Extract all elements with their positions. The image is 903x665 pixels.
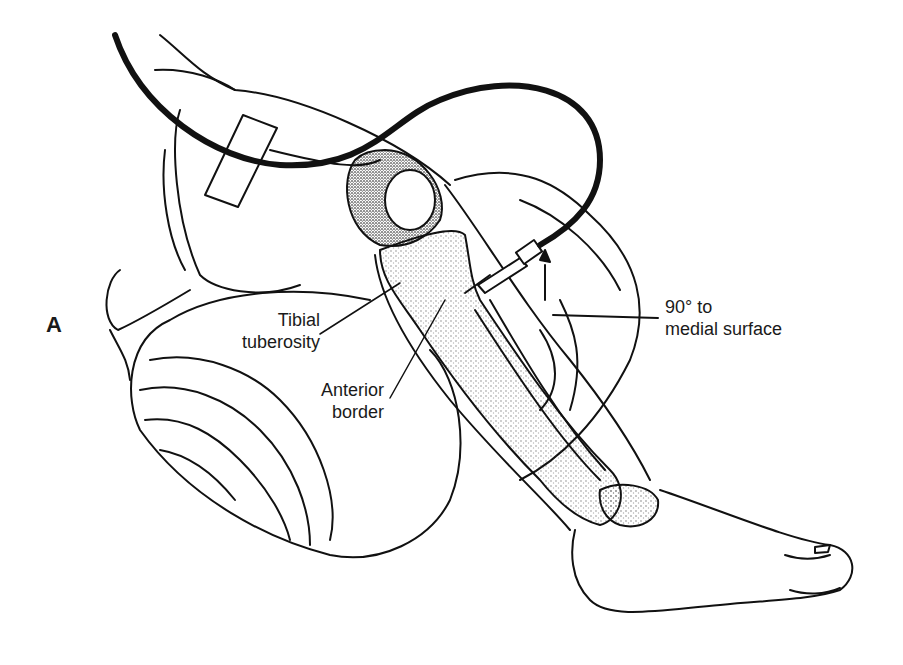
label-line: tuberosity	[230, 331, 320, 353]
label-line: Tibial	[230, 309, 320, 331]
panel-label: A	[46, 314, 62, 336]
label-anterior-border: Anterior border	[270, 379, 384, 423]
label-line: 90° to	[665, 296, 782, 318]
label-line: Anterior	[270, 379, 384, 401]
label-line: medial surface	[665, 318, 782, 340]
label-line: border	[270, 401, 384, 423]
io-needle	[465, 240, 542, 293]
label-angle: 90° to medial surface	[665, 296, 782, 340]
angle-indicator	[540, 250, 658, 410]
patella	[347, 150, 442, 246]
label-tibial-tuberosity: Tibial tuberosity	[230, 309, 320, 353]
